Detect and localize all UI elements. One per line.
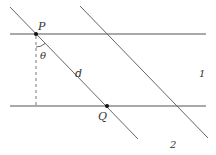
ray-1	[10, 7, 138, 139]
label-medium-1: 1	[199, 68, 205, 79]
point-Q	[105, 104, 109, 108]
label-Q: Q	[98, 110, 107, 123]
theta-angle-arc	[36, 44, 45, 48]
label-d: d	[75, 67, 82, 80]
label-medium-2: 2	[169, 139, 176, 150]
refraction-diagram: P θ d Q 1 2	[0, 0, 216, 155]
label-theta: θ	[40, 50, 46, 61]
label-P: P	[37, 20, 46, 33]
